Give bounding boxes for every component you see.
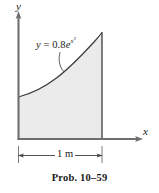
figure-container: y x y = 0.8ex2 1 m Prob. 10–59 <box>0 0 159 193</box>
figure-caption: Prob. 10–59 <box>0 172 159 183</box>
x-axis-label: x <box>143 126 148 137</box>
curve-equation-label: y = 0.8ex2 <box>36 39 76 50</box>
equation-leader-line <box>59 53 63 72</box>
figure-graphic <box>0 0 159 193</box>
dimension-width-label: 1 m <box>55 149 75 160</box>
equation-exponent: x2 <box>70 37 76 44</box>
y-axis-label: y <box>16 1 21 12</box>
equation-exponent-power: 2 <box>74 36 77 41</box>
equation-coefficient: 0.8 <box>52 39 65 50</box>
